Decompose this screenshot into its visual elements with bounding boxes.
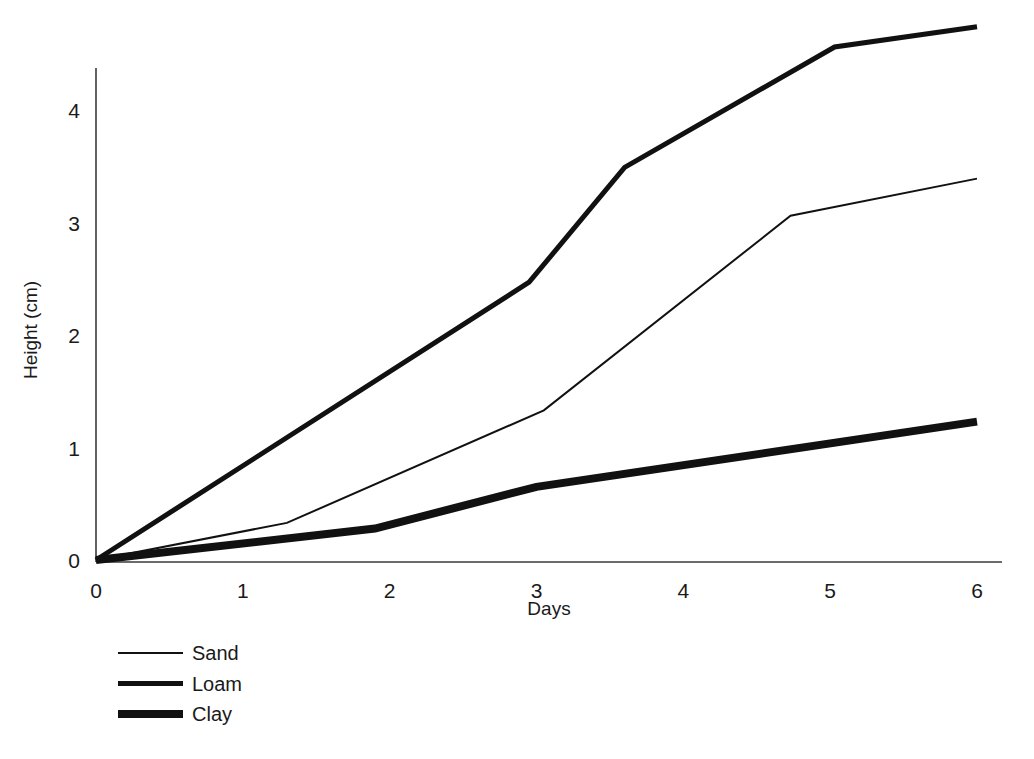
series-line-clay (96, 422, 977, 560)
x-tick-label: 0 (90, 579, 102, 602)
y-tick-label: 1 (68, 437, 80, 460)
chart-canvas: 01234 0123456 Days Height (cm) SandLoamC… (0, 0, 1034, 759)
legend-item-sand[interactable]: Sand (118, 642, 239, 664)
x-tick-label: 5 (824, 579, 836, 602)
chart-legend: SandLoamClay (118, 642, 242, 725)
legend-item-clay[interactable]: Clay (118, 703, 232, 725)
x-tick-label: 2 (384, 579, 396, 602)
y-tick-label: 0 (68, 549, 80, 572)
x-axis-title: Days (527, 598, 570, 619)
y-axis-title: Height (cm) (20, 281, 41, 379)
y-tick-label: 2 (68, 324, 80, 347)
legend-label-loam: Loam (192, 673, 242, 695)
legend-item-loam[interactable]: Loam (118, 673, 242, 695)
series-line-sand (96, 179, 977, 560)
line-chart: 01234 0123456 Days Height (cm) SandLoamC… (0, 0, 1034, 759)
y-tick-label: 3 (68, 212, 80, 235)
y-tick-label: 4 (68, 99, 80, 122)
x-tick-label: 6 (971, 579, 983, 602)
legend-label-sand: Sand (192, 642, 239, 664)
legend-label-clay: Clay (192, 703, 232, 725)
y-axis-tick-labels: 01234 (68, 99, 80, 572)
x-tick-label: 4 (677, 579, 689, 602)
x-tick-label: 1 (237, 579, 249, 602)
data-series-group (96, 27, 977, 560)
series-line-loam (96, 27, 977, 560)
